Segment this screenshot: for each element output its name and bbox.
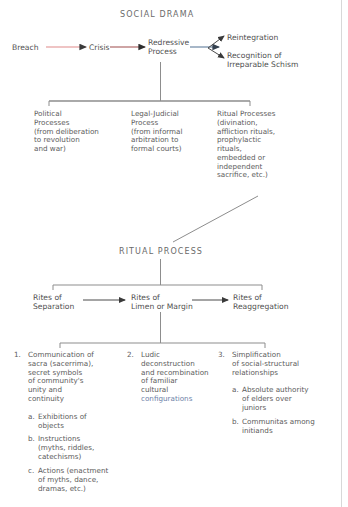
bracket-liminal-features <box>60 343 265 348</box>
connector-overlay <box>0 0 348 507</box>
diagram-canvas: SOCIAL DRAMA Breach Crisis Redressive Pr… <box>0 0 348 507</box>
diagonal-ritual-to-ritual-process <box>173 196 258 242</box>
bracket-redressive-types <box>49 101 250 106</box>
arrow-fork-to-schism <box>208 48 224 58</box>
bracket-rites <box>53 285 262 290</box>
arrow-fork-to-reintegration <box>208 36 224 48</box>
